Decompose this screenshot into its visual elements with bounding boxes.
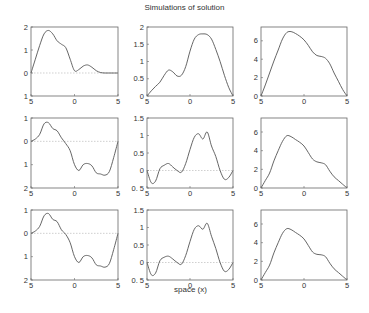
solution-curve: [261, 228, 347, 280]
y-tick-label: 1: [140, 223, 144, 232]
axes-frame: [31, 210, 118, 280]
x-tick-label: 5: [259, 189, 263, 198]
y-tick-label: 6: [254, 36, 258, 45]
solution-curve: [31, 122, 118, 175]
y-tick-label: 2: [24, 184, 28, 193]
solution-curve: [147, 34, 233, 96]
y-tick-label: 1.5: [134, 114, 144, 123]
y-tick-label: 0: [24, 137, 28, 146]
x-tick-label: 0: [188, 189, 192, 198]
y-tick-label: 1: [24, 252, 28, 261]
y-tick-label: 0: [140, 166, 144, 175]
x-tick-label: 5: [259, 97, 263, 106]
solution-curve: [261, 135, 347, 188]
y-tick-label: 2: [24, 23, 28, 32]
solution-curve: [31, 30, 118, 73]
x-tick-label: 5: [345, 97, 349, 106]
y-tick-label: 0.5: [134, 241, 144, 250]
y-tick-label: 4: [254, 146, 258, 155]
subplot-r2-c3: 5050246: [254, 118, 349, 198]
y-tick-label: 0. 5: [131, 184, 144, 193]
y-tick-label: 2: [254, 73, 258, 82]
x-tick-label: 0: [72, 189, 76, 198]
x-tick-label: 5: [345, 189, 349, 198]
solution-curve: [147, 223, 233, 275]
x-tick-label: 5: [231, 189, 235, 198]
x-tick-label: 5: [116, 281, 120, 290]
x-tick-label: 5: [145, 189, 149, 198]
y-tick-label: 1: [24, 46, 28, 55]
y-tick-label: 1: [24, 92, 28, 101]
y-tick-label: 4: [254, 55, 258, 64]
x-tick-label: 5: [231, 97, 235, 106]
y-tick-label: 0.5: [134, 74, 144, 83]
y-tick-label: 2: [24, 276, 28, 285]
y-tick-label: 0: [24, 69, 28, 78]
y-tick-label: 0: [24, 229, 28, 238]
y-tick-label: 0: [140, 258, 144, 267]
x-tick-label: 0: [302, 97, 306, 106]
axes-frame: [261, 118, 347, 188]
y-tick-label: 1: [24, 160, 28, 169]
x-tick-label: 0: [188, 97, 192, 106]
subplot-grid: 505101250500.511.52505024650521015050. 5…: [0, 0, 369, 313]
subplot-r2-c2: 5050. 500.511.5: [131, 114, 235, 199]
subplot-r3-c3: 5050246: [254, 210, 349, 290]
y-tick-label: 4: [254, 238, 258, 247]
y-tick-label: 1.5: [134, 206, 144, 215]
subplot-r1-c2: 50500.511.52: [134, 23, 236, 107]
x-tick-label: 0: [302, 281, 306, 290]
x-axis-label: space (x): [147, 285, 234, 294]
solution-curve: [31, 213, 118, 267]
subplot-r1-c1: 5051012: [24, 23, 120, 107]
subplot-r3-c1: 5052101: [24, 206, 120, 291]
y-tick-label: 6: [254, 128, 258, 137]
y-tick-label: 0: [254, 184, 258, 193]
x-tick-label: 5: [259, 281, 263, 290]
y-tick-label: 1: [140, 131, 144, 140]
subplot-r1-c3: 5050246: [254, 27, 349, 106]
y-tick-label: 0. 5: [131, 276, 144, 285]
x-tick-label: 5: [29, 189, 33, 198]
y-tick-label: 0: [140, 92, 144, 101]
solution-curve: [147, 132, 233, 184]
x-tick-label: 0: [72, 97, 76, 106]
x-tick-label: 5: [29, 97, 33, 106]
axes-frame: [147, 118, 233, 188]
subplot-r2-c1: 5052101: [24, 114, 120, 199]
axes-frame: [31, 118, 118, 188]
y-tick-label: 2: [140, 23, 144, 32]
x-tick-label: 5: [29, 281, 33, 290]
x-tick-label: 5: [116, 97, 120, 106]
axes-frame: [261, 210, 347, 280]
y-tick-label: 0.5: [134, 149, 144, 158]
y-tick-label: 0: [254, 276, 258, 285]
axes-frame: [31, 27, 118, 96]
x-tick-label: 0: [302, 189, 306, 198]
x-tick-label: 5: [145, 97, 149, 106]
solution-curve: [261, 31, 347, 96]
y-tick-label: 0: [254, 92, 258, 101]
axes-frame: [147, 210, 233, 280]
y-tick-label: 2: [254, 257, 258, 266]
x-tick-label: 0: [72, 281, 76, 290]
y-tick-label: 1: [140, 57, 144, 66]
x-tick-label: 5: [345, 281, 349, 290]
y-tick-label: 1.5: [134, 40, 144, 49]
y-tick-label: 2: [254, 165, 258, 174]
y-tick-label: 1: [24, 114, 28, 123]
y-tick-label: 6: [254, 220, 258, 229]
y-tick-label: 1: [24, 206, 28, 215]
subplot-r3-c2: 5050. 500.511.5: [131, 206, 235, 291]
x-tick-label: 5: [116, 189, 120, 198]
